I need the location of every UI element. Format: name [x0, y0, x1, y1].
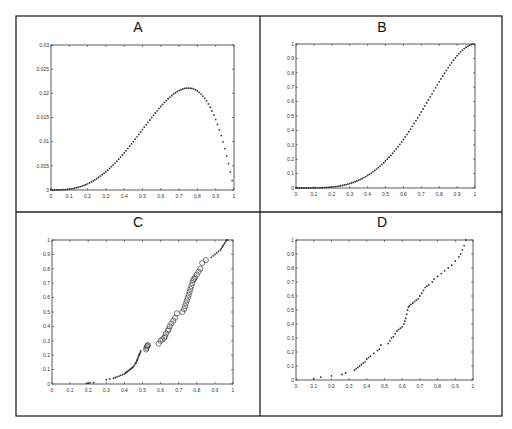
data-point [341, 374, 343, 376]
data-point [408, 131, 410, 133]
data-point [114, 162, 116, 164]
data-point [358, 179, 360, 181]
x-tick-label: 0.1 [66, 193, 73, 199]
data-point [215, 119, 217, 121]
panel-title-b: B [377, 19, 386, 35]
data-point [345, 184, 347, 186]
y-tick-label: 0.5 [287, 113, 294, 119]
data-point [331, 375, 333, 377]
data-point [377, 350, 379, 352]
data-point [392, 336, 394, 338]
data-point [191, 88, 193, 90]
data-point [440, 78, 442, 80]
x-tick-label: 0.3 [102, 193, 109, 199]
data-point [354, 369, 356, 371]
data-point [302, 187, 304, 189]
y-tick-label: 0.6 [287, 293, 294, 299]
data-point [431, 93, 433, 95]
data-point [465, 239, 467, 241]
data-point [61, 189, 63, 191]
x-tick-label: 0.9 [211, 387, 218, 393]
data-point [398, 329, 400, 331]
data-point [184, 88, 186, 90]
data-point [89, 182, 91, 184]
data-point-open [203, 258, 208, 263]
axes-box [52, 240, 233, 384]
data-point [218, 251, 220, 253]
x-tick-label: 0.7 [176, 193, 183, 199]
data-point [54, 189, 56, 191]
data-point [322, 187, 324, 189]
data-point [131, 143, 133, 145]
x-tick-label: 0.2 [84, 193, 91, 199]
x-tick-label: 0.7 [416, 383, 423, 389]
y-tick-label: 0.5 [43, 309, 50, 315]
x-tick-label: 0 [295, 383, 298, 389]
data-point [411, 125, 413, 127]
data-point [220, 135, 222, 137]
y-tick-label: 0.8 [287, 70, 294, 76]
data-point [98, 177, 100, 179]
data-point [437, 276, 439, 278]
y-tick-label: 0.2 [43, 352, 50, 358]
y-tick-label: 0.005 [36, 163, 49, 169]
data-point [165, 100, 167, 102]
y-tick-label: 0 [47, 381, 50, 387]
data-point [360, 178, 362, 180]
data-point [378, 348, 380, 350]
data-point [340, 185, 342, 187]
data-point [114, 377, 116, 379]
data-point [63, 189, 65, 191]
y-tick-label: 0.4 [287, 321, 294, 327]
data-point [295, 187, 297, 189]
data-point [189, 87, 191, 89]
data-point [306, 187, 308, 189]
data-point [370, 172, 372, 174]
data-point [389, 340, 391, 342]
data-point [222, 141, 224, 143]
data-point [472, 43, 474, 45]
data-point [458, 256, 460, 258]
data-point [68, 188, 70, 190]
data-point [123, 152, 125, 154]
data-point [112, 164, 114, 166]
data-point [116, 160, 118, 162]
data-point [154, 112, 156, 114]
data-point [94, 179, 96, 181]
data-point [118, 375, 120, 377]
data-point [410, 304, 412, 306]
data-point [460, 51, 462, 53]
data-point [142, 129, 144, 131]
figure-grid: A 00.10.20.30.40.50.60.70.80.9100.0050.0… [0, 0, 512, 429]
data-point [379, 165, 381, 167]
data-point [186, 87, 188, 89]
data-point [467, 45, 469, 47]
x-tick-label: 0.1 [310, 383, 317, 389]
data-point [413, 123, 415, 125]
data-point [171, 95, 173, 97]
data-point [72, 188, 74, 190]
data-point [134, 138, 136, 140]
data-point [433, 90, 435, 92]
data-point [90, 181, 92, 183]
y-tick-label: 0.9 [287, 55, 294, 61]
data-point [388, 156, 390, 158]
y-tick-label: 0.7 [43, 280, 50, 286]
data-point [451, 62, 453, 64]
data-point [198, 91, 200, 93]
data-point [309, 187, 311, 189]
data-point [342, 184, 344, 186]
y-tick-label: 0.02 [39, 90, 49, 96]
y-tick-label: 0.9 [43, 251, 50, 257]
data-point [471, 44, 473, 46]
data-point [428, 99, 430, 101]
data-point [169, 96, 171, 98]
data-point [435, 87, 437, 89]
data-point [57, 189, 59, 191]
data-point [426, 285, 428, 287]
data-point [420, 111, 422, 113]
x-tick-label: 0.5 [139, 387, 146, 393]
data-point [217, 124, 219, 126]
data-point [167, 98, 169, 100]
x-tick-label: 0.4 [121, 387, 128, 393]
